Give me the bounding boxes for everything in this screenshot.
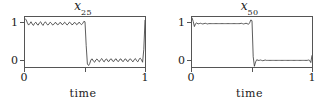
xaxis-label-x50: time [166,87,333,100]
ytick-label-1: 1 [4,17,18,28]
ytick-label-0: 0 [171,55,185,66]
series-svg-x50 [192,17,312,67]
xtick-label-0: 0 [17,72,31,83]
plot-area-x50 [191,16,313,68]
data-series-x50 [192,18,312,67]
ytick-mark-0 [20,60,24,61]
chart-title-base: x [241,0,248,13]
xtick-mark-mid [85,68,86,72]
series-svg-x25 [25,17,145,67]
figure-root: x25 1 0 0 1 time x50 1 [0,0,333,104]
ytick-label-0: 0 [4,55,18,66]
data-series-x25 [25,18,145,65]
xtick-mark-mid [252,68,253,72]
ytick-mark-1 [20,22,24,23]
chart-panel-x50: x50 1 0 0 1 time [166,0,333,104]
xaxis-label-x25: time [0,87,166,100]
chart-panel-x25: x25 1 0 0 1 time [0,0,166,104]
xtick-label-1: 1 [138,72,152,83]
ytick-mark-1 [187,22,191,23]
ytick-label-1: 1 [171,17,185,28]
ytick-mark-0 [187,60,191,61]
xtick-label-0: 0 [184,72,198,83]
xtick-label-1: 1 [305,72,319,83]
plot-area-x25 [24,16,146,68]
